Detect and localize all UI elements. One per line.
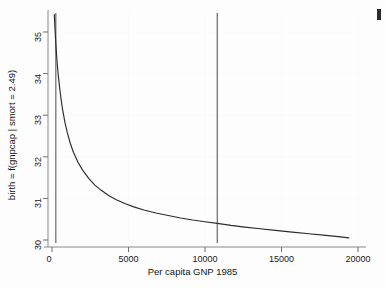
chart-plot-area: [0, 0, 385, 288]
reference-lines-group: [56, 13, 217, 243]
y-tick-label-31: 31: [33, 198, 43, 216]
y-axis-title: birth = f(gnpcap | smort = 2.49): [4, 30, 18, 240]
y-tick-label-33: 33: [33, 115, 43, 133]
y-tick-label-34: 34: [33, 74, 43, 92]
page-edge-mark: [377, 9, 381, 20]
y-tick-label-30: 30: [33, 240, 43, 258]
x-tick-label-15000: 15000: [269, 254, 294, 264]
y-tick-label-35: 35: [33, 32, 43, 50]
gridlines-group: [52, 12, 358, 240]
x-tick-label-0: 0: [46, 254, 51, 264]
x-tick-label-20000: 20000: [345, 254, 370, 264]
y-tick-label-32: 32: [33, 157, 43, 175]
x-tick-label-5000: 5000: [118, 254, 138, 264]
figure-canvas: birth = f(gnpcap | smort = 2.49) 35 34 3…: [0, 0, 385, 288]
x-axis-title: Per capita GNP 1985: [0, 266, 385, 277]
y-tick-marks: [43, 32, 48, 240]
x-tick-marks: [52, 247, 358, 252]
birth-gnpcap-curve: [54, 15, 349, 238]
y-axis-title-text: birth = f(gnpcap | smort = 2.49): [6, 70, 17, 200]
x-tick-label-10000: 10000: [192, 254, 217, 264]
